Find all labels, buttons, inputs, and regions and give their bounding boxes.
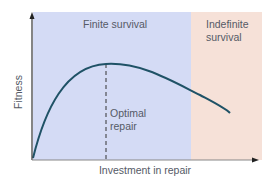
finite-survival-label: Finite survival <box>83 18 147 30</box>
finite-survival-region <box>33 12 191 160</box>
indefinite-survival-label-line2: survival <box>206 31 242 43</box>
optimal-label-line2: repair <box>110 120 137 132</box>
indefinite-survival-label-line1: Indefinite <box>206 18 249 30</box>
x-axis-label: Investment in repair <box>99 164 192 176</box>
optimal-label-line1: Optimal <box>110 107 146 119</box>
y-axis-label: Fitness <box>12 75 24 109</box>
fitness-repair-diagram: Finite survival Indefinite survival Opti… <box>0 0 275 180</box>
